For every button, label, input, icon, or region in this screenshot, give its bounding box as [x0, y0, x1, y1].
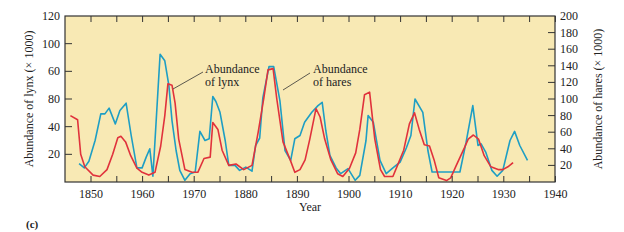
y-right-tick-label: 120 — [560, 75, 578, 89]
right-y-axis-title: Abundance of hares (× 1000) — [591, 29, 605, 170]
y-left-tick-label: 40 — [48, 120, 60, 134]
y-left-tick-label: 60 — [48, 64, 60, 78]
lynx-annotation-line1: Abundance — [205, 62, 260, 76]
y-right-tick-label: 20 — [560, 158, 572, 172]
x-tick-label: 1930 — [492, 187, 516, 201]
panel-label: (c) — [26, 218, 39, 231]
y-left-tick-label: 100 — [42, 37, 60, 51]
y-right-tick-label: 40 — [560, 142, 572, 156]
x-tick-label: 1970 — [182, 187, 206, 201]
y-right-tick-label: 100 — [560, 92, 578, 106]
x-tick-label: 1850 — [79, 187, 103, 201]
lynx-hare-chart: 1850196019701880189019001910192019301940… — [0, 0, 624, 232]
y-left-tick-label: 120 — [42, 9, 60, 23]
y-right-tick-label: 180 — [560, 26, 578, 40]
x-tick-label: 1880 — [234, 187, 258, 201]
x-tick-label: 1890 — [285, 187, 309, 201]
x-tick-label: 1910 — [389, 187, 413, 201]
x-tick-label: 1920 — [440, 187, 464, 201]
lynx-annotation-line2: of lynx — [205, 75, 239, 89]
y-left-tick-label: 80 — [48, 92, 60, 106]
y-right-tick-label: 200 — [560, 9, 578, 23]
y-left-tick-label: 20 — [48, 147, 60, 161]
x-tick-label: 1960 — [131, 187, 155, 201]
hares-annotation-line2: of hares — [313, 75, 352, 89]
left-y-axis-title: Abundance of lynx (× 1000) — [22, 31, 36, 168]
hares-annotation-line1: Abundance — [313, 62, 368, 76]
x-tick-label: 1940 — [543, 187, 567, 201]
x-tick-label: 1900 — [337, 187, 361, 201]
x-axis-title: Year — [299, 200, 321, 214]
y-right-tick-label: 80 — [560, 109, 572, 123]
y-right-tick-label: 140 — [560, 59, 578, 73]
y-right-tick-label: 60 — [560, 125, 572, 139]
plot-area — [65, 16, 555, 182]
y-right-tick-label: 160 — [560, 42, 578, 56]
